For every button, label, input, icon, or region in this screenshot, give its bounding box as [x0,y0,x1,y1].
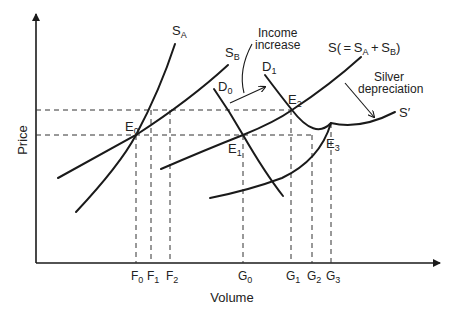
tick-f0: F0 [131,269,143,285]
label-s-prime: S′ [399,105,411,120]
x-tick-labels: F0 F1 F2 G0 G1 G2 G3 [131,269,340,285]
x-axis-label: Volume [210,290,253,305]
label-s: S( = SA + SB) [328,40,400,57]
tick-g0: G0 [238,269,252,285]
curves [58,44,395,212]
income-pointer-line [242,44,252,93]
income-increase-text-2: increase [255,38,301,52]
tick-g1: G1 [286,269,300,285]
tick-f2: F2 [166,269,178,285]
tick-g2: G2 [307,269,321,285]
label-e2: E2 [288,92,302,109]
label-sa: SA [172,23,187,40]
income-shift-arrow-icon [230,87,265,103]
tick-f1: F1 [147,269,159,285]
annotations: Income increase Silver depreciation [230,26,423,117]
label-d1: D1 [262,59,276,76]
label-e0: E0 [125,119,139,136]
label-d0: D0 [218,79,232,96]
label-e1: E1 [228,141,242,158]
supply-demand-diagram: Price Volume SA SB S( = SA + SB) [0,0,453,315]
tick-g3: G3 [326,269,340,285]
label-e3: E3 [326,136,340,153]
y-axis-label: Price [15,125,30,155]
label-sb: SB [225,45,240,62]
silver-depreciation-text-2: depreciation [358,82,423,96]
guide-lines [36,110,331,263]
